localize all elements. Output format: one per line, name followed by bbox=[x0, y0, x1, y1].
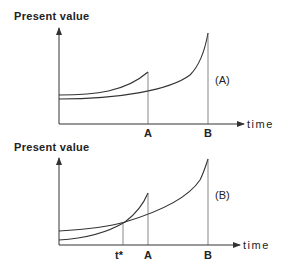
panel-label: (B) bbox=[215, 189, 230, 201]
tick-b: B bbox=[204, 127, 212, 139]
panel-b: Present value time t* A B (B) bbox=[14, 141, 270, 261]
x-axis-label: time bbox=[247, 118, 274, 130]
curve-harvest-a bbox=[59, 193, 148, 240]
tick-b: B bbox=[204, 249, 212, 261]
panel-a: Present value time A B (A) bbox=[14, 10, 274, 139]
y-axis-label: Present value bbox=[14, 141, 89, 153]
present-value-diagram: Present value time A B (A) Present value… bbox=[0, 0, 287, 273]
curve-harvest-b bbox=[59, 33, 208, 99]
tick-a: A bbox=[144, 249, 152, 261]
tick-a: A bbox=[144, 127, 152, 139]
y-axis-label: Present value bbox=[14, 10, 89, 22]
curve-harvest-b bbox=[59, 159, 208, 231]
x-axis-label: time bbox=[243, 239, 270, 251]
tick-tstar: t* bbox=[115, 249, 124, 261]
panel-label: (A) bbox=[215, 74, 230, 86]
curve-harvest-a bbox=[59, 72, 148, 95]
